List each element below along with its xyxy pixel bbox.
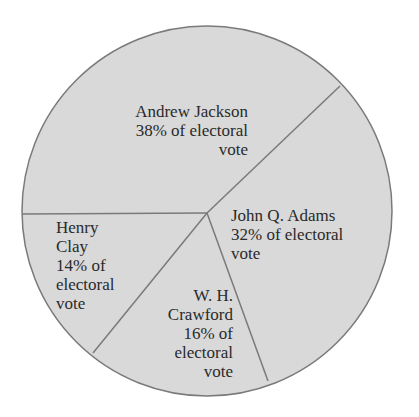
slice-label-crawford: W. H. Crawford 16% of electoral vote (130, 286, 233, 381)
divider-jackson-clay (22, 213, 207, 214)
slice-label-adams: John Q. Adams 32% of electoral vote (231, 206, 343, 263)
slice-label-clay: Henry Clay 14% of electoral vote (56, 218, 115, 313)
slice-label-jackson: Andrew Jackson 38% of electoral vote (90, 102, 248, 159)
